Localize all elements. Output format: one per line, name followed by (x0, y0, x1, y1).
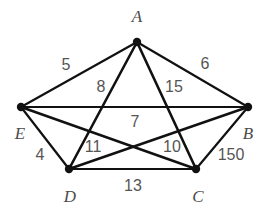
vertex-label-b: B (243, 125, 253, 142)
edge-weight-e-c: 11 (85, 139, 102, 155)
graph-vertex-b (244, 103, 252, 111)
edge-weight-b-c: 150 (218, 147, 245, 163)
edge-weight-d-b: 10 (163, 139, 181, 155)
edge-weight-e-b: 7 (131, 114, 140, 130)
graph-vertex-c (192, 165, 200, 173)
edge-weight-d-c: 13 (124, 178, 142, 194)
graph-vertex-d (65, 165, 73, 173)
vertex-label-a: A (132, 8, 142, 25)
graph-vertex-a (133, 38, 141, 46)
edge-weight-e-d: 4 (36, 147, 45, 163)
edge-weight-a-b: 6 (201, 56, 210, 72)
edge-weight-a-c: 15 (165, 79, 183, 95)
graph-vertex-e (17, 103, 25, 111)
graph-edges (21, 42, 248, 169)
edge-weight-a-d: 8 (97, 79, 106, 95)
edge-weight-e-a: 5 (62, 57, 71, 73)
vertex-label-d: D (64, 188, 76, 205)
vertex-label-c: C (192, 188, 203, 205)
graph-edge (137, 42, 248, 107)
vertex-label-e: E (15, 125, 25, 142)
weighted-graph-figure: ABCDE 5681574111015013 (0, 0, 272, 213)
